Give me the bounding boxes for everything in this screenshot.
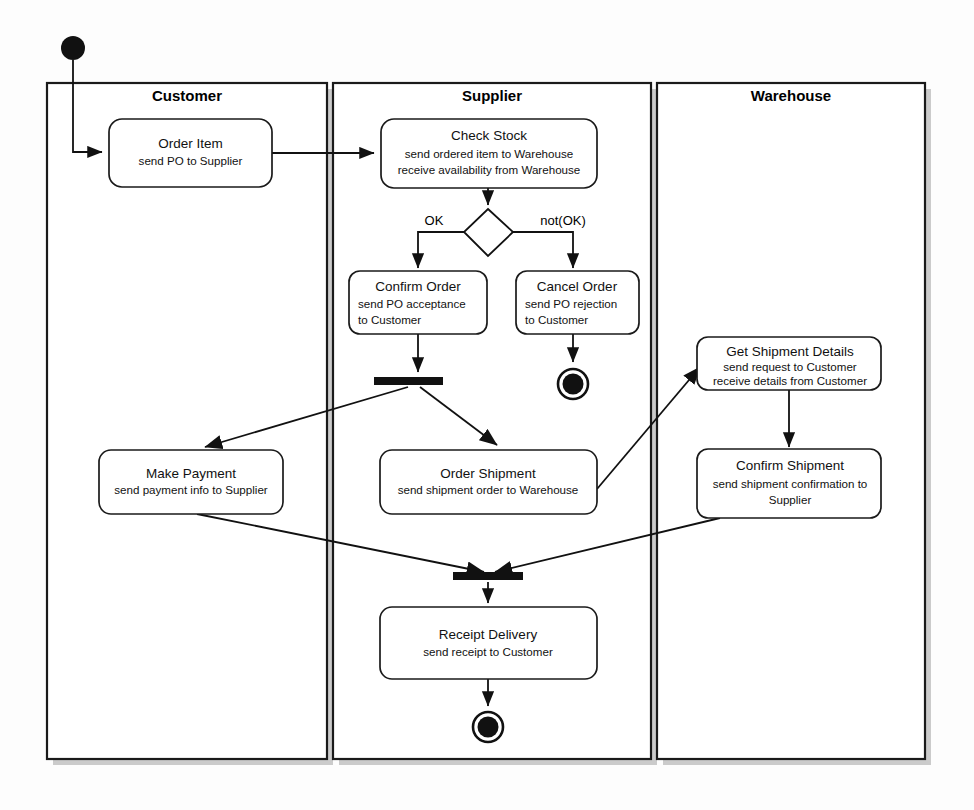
activity-line-get-shipment-details-0: send request to Customer [723,360,857,373]
activity-line-confirm-order-0: send PO acceptance [358,297,466,310]
lane-body-warehouse [657,83,925,759]
activity-box-make-payment [99,450,283,514]
activity-line-get-shipment-details-1: receive details from Customer [713,374,867,387]
activity-receipt-delivery[interactable]: Receipt Delivery send receipt to Custome… [380,607,597,679]
activity-line-receipt-delivery-0: send receipt to Customer [423,645,553,658]
initial-node-circle [61,36,85,60]
final-node-dot-receipt [478,717,499,738]
activity-title-confirm-shipment: Confirm Shipment [736,458,844,473]
activity-cancel-order[interactable]: Cancel Order send PO rejection to Custom… [516,271,639,334]
uml-activity-diagram: Customer Supplier Warehouse [0,0,974,810]
activity-get-shipment-details[interactable]: Get Shipment Details send request to Cus… [697,337,881,390]
fork-bar[interactable] [374,377,443,385]
activity-title-check-stock: Check Stock [451,128,527,143]
fork-bar-rect [374,377,443,385]
activity-box-receipt-delivery [380,607,597,679]
activity-title-receipt-delivery: Receipt Delivery [439,627,538,642]
activity-line-confirm-shipment-1: Supplier [769,493,812,506]
activity-title-order-item: Order Item [158,136,223,151]
lane-title-customer: Customer [152,87,222,104]
activity-line-cancel-order-0: send PO rejection [525,297,617,310]
activity-order-shipment[interactable]: Order Shipment send shipment order to Wa… [380,450,597,514]
guard-label-ok: OK [425,213,444,228]
swimlane-warehouse[interactable]: Warehouse [657,83,925,759]
activity-box-order-item [109,119,272,187]
activity-check-stock[interactable]: Check Stock send ordered item to Warehou… [381,119,597,188]
guard-label-not-ok: not(OK) [540,213,586,228]
activity-box-order-shipment [380,450,597,514]
end-node-receipt[interactable] [473,712,503,742]
activity-title-cancel-order: Cancel Order [537,279,618,294]
activity-line-check-stock-1: receive availability from Warehouse [398,163,581,176]
activity-diagram-canvas: Customer Supplier Warehouse [0,0,974,810]
activity-title-make-payment: Make Payment [146,466,236,481]
join-bar-rect [453,572,523,580]
activity-line-order-shipment-0: send shipment order to Warehouse [398,483,579,496]
activity-title-get-shipment-details: Get Shipment Details [726,344,854,359]
start-node[interactable] [61,36,85,60]
final-node-dot-cancel [563,374,584,395]
activity-order-item[interactable]: Order Item send PO to Supplier [109,119,272,187]
lane-title-supplier: Supplier [462,87,522,104]
activity-line-make-payment-0: send payment info to Supplier [114,483,268,496]
activity-line-cancel-order-1: to Customer [525,313,588,326]
end-node-cancel[interactable] [558,369,588,399]
lane-title-warehouse: Warehouse [751,87,831,104]
activity-confirm-order[interactable]: Confirm Order send PO acceptance to Cust… [349,271,487,334]
activity-line-check-stock-0: send ordered item to Warehouse [405,147,573,160]
activity-line-order-item-0: send PO to Supplier [139,154,243,167]
activity-line-confirm-order-1: to Customer [358,313,421,326]
activity-title-confirm-order: Confirm Order [375,279,461,294]
activity-make-payment[interactable]: Make Payment send payment info to Suppli… [99,450,283,514]
join-bar[interactable] [453,572,523,580]
activity-confirm-shipment[interactable]: Confirm Shipment send shipment confirmat… [697,449,881,518]
activity-line-confirm-shipment-0: send shipment confirmation to [713,477,868,490]
activity-title-order-shipment: Order Shipment [440,466,536,481]
